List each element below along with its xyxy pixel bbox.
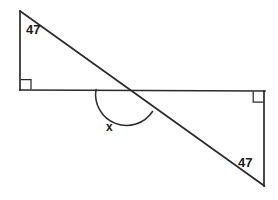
right-angle-marker-left-icon [21, 80, 31, 90]
horizontal-base-line [20, 90, 265, 91]
angle-label-unknown-x: x [106, 121, 113, 133]
angle-x-arc [96, 90, 153, 126]
diagonal-transversal-line [20, 11, 265, 186]
geometry-figure: 47 x 47 [0, 0, 278, 200]
geometry-canvas [0, 0, 278, 200]
right-angle-marker-right-icon [253, 92, 263, 103]
angle-label-bottom-right: 47 [238, 156, 252, 169]
angle-label-top-left: 47 [26, 23, 40, 36]
